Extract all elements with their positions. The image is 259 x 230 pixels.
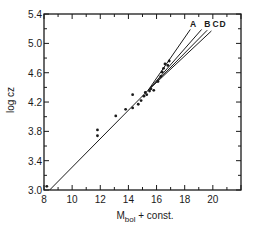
plot-frame [44, 14, 241, 190]
data-point [162, 67, 165, 70]
curve-label-a: A [190, 19, 196, 29]
y-tick-label: 4.6 [28, 68, 42, 79]
y-tick-label: 3.4 [28, 156, 42, 167]
data-point [96, 134, 99, 137]
data-point [137, 103, 140, 106]
x-tick-label: 8 [41, 194, 47, 205]
x-tick-label: 20 [207, 194, 219, 205]
scatter-chart: 3.03.43.84.24.65.05.4 8101214161820 ABCD… [0, 0, 259, 230]
curve-label-b: B [204, 19, 210, 29]
data-point [161, 71, 164, 74]
x-axis-label-main: M [116, 210, 124, 221]
y-tick-label: 5.0 [28, 38, 42, 49]
fit-lines [50, 29, 212, 190]
data-point [150, 87, 153, 90]
data-point [142, 95, 145, 98]
fit-line-baseline [50, 90, 148, 190]
curve-labels: ABCD [190, 19, 226, 29]
data-point [124, 108, 127, 111]
data-point [131, 93, 134, 96]
y-axis-label: log cz [5, 87, 16, 113]
data-point [166, 64, 169, 67]
data-point [145, 93, 148, 96]
y-tick-label: 3.8 [28, 126, 42, 137]
x-axis-label-rest: + const. [135, 210, 173, 221]
axis-ticks [44, 14, 241, 190]
data-point [164, 63, 167, 66]
x-tick-label: 14 [123, 194, 135, 205]
data-point [96, 128, 99, 131]
fit-line-b [148, 29, 201, 90]
curve-label-c: C [213, 19, 219, 29]
curve-label-d: D [220, 19, 226, 29]
x-tick-labels: 8101214161820 [41, 194, 219, 205]
data-points [45, 60, 170, 188]
x-axis-label-sub: bol [125, 215, 136, 224]
x-axis-label: Mbol + const. [116, 210, 173, 224]
data-point [157, 80, 160, 83]
x-tick-label: 12 [95, 194, 107, 205]
data-point [152, 89, 155, 92]
data-point [45, 185, 48, 188]
y-tick-label: 5.4 [28, 9, 42, 20]
y-tick-label: 4.2 [28, 97, 42, 108]
data-point [140, 99, 143, 102]
x-tick-label: 16 [151, 194, 163, 205]
x-tick-label: 10 [67, 194, 79, 205]
y-tick-labels: 3.03.43.84.24.65.05.4 [28, 9, 42, 196]
data-point [114, 115, 117, 118]
data-point [168, 60, 171, 63]
x-tick-label: 18 [179, 194, 191, 205]
data-point [131, 107, 134, 110]
data-point [159, 75, 162, 78]
